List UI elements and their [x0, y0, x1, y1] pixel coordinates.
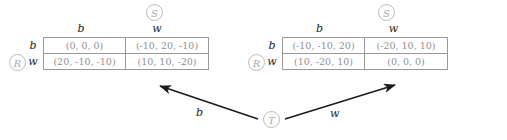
arrow-branch-w — [285, 85, 395, 119]
arrow-branch-b — [160, 86, 258, 119]
node-t-root: T — [263, 111, 280, 128]
figure-canvas: S b w R b w (0, 0, 0) (-10, 20, -10) (20… — [0, 0, 507, 140]
branch-label-b: b — [196, 106, 203, 119]
branch-arrows — [0, 0, 507, 140]
branch-label-w: w — [330, 107, 339, 120]
